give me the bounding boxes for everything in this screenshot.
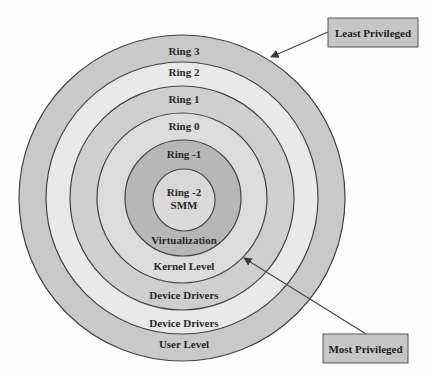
least-privileged-callout: Least Privileged [271,18,418,57]
label-user-level: User Level [159,338,209,350]
label-ring-2: Ring 2 [169,66,200,78]
protection-rings-diagram: Ring 3 Ring 2 Ring 1 Ring 0 Ring -1 Ring… [0,0,431,379]
ring-name-labels: Ring 3 Ring 2 Ring 1 Ring 0 Ring -1 Ring… [167,45,202,211]
label-virtualization: Virtualization [151,234,217,246]
most-privileged-label: Most Privileged [328,343,402,355]
label-device-drivers-ring-1: Device Drivers [149,289,219,301]
label-smm: SMM [171,199,199,211]
least-privileged-arrow [271,32,328,57]
label-device-drivers-ring-2: Device Drivers [149,317,219,329]
label-ring-minus-1: Ring -1 [167,148,202,160]
label-ring-1: Ring 1 [169,93,200,105]
label-ring-3: Ring 3 [169,45,200,57]
rings-group [19,35,345,361]
label-ring-0: Ring 0 [169,120,200,132]
label-kernel-level: Kernel Level [154,260,215,272]
least-privileged-label: Least Privileged [335,27,411,39]
label-ring-minus-2: Ring -2 [167,186,202,198]
